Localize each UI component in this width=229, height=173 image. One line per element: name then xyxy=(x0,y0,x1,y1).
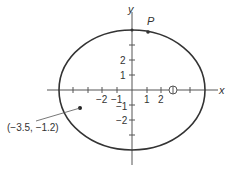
ellipse-diagram: y x −2 −1 1 2 2 1 −1 −2 P (−3.5, −1.2) xyxy=(0,0,229,173)
x-tick-label-neg2: −2 xyxy=(96,94,108,105)
y-axis-label: y xyxy=(127,3,135,15)
x-axis-label: x xyxy=(218,84,225,96)
y-tick-label-2: 2 xyxy=(120,55,126,66)
leader-line xyxy=(36,108,80,121)
focus-marker-icon xyxy=(169,86,177,94)
y-tick-label-neg2: −2 xyxy=(116,115,128,126)
x-tick-label-2: 2 xyxy=(158,94,164,105)
top-vertex-point xyxy=(131,29,134,32)
y-tick-label-neg1: −1 xyxy=(116,101,128,112)
point-p xyxy=(146,30,150,34)
y-tick-label-1: 1 xyxy=(120,70,126,81)
interior-point-label: (−3.5, −1.2) xyxy=(7,122,59,133)
point-p-label: P xyxy=(147,15,155,27)
x-tick-label-1: 1 xyxy=(144,94,150,105)
